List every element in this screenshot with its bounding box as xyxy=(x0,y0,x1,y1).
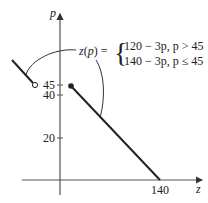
leader-upper xyxy=(26,50,76,75)
annotation-case1: 120 − 3p, p > 45 xyxy=(124,39,204,53)
segment-upper xyxy=(12,60,33,83)
segment-lower xyxy=(71,86,160,180)
x-axis-label: z xyxy=(195,182,201,196)
annotation-lhs: z(p) = xyxy=(78,44,108,58)
leader-lower xyxy=(96,60,103,118)
x-tick-140: 140 xyxy=(151,183,169,197)
closed-endpoint xyxy=(68,83,74,89)
y-tick-40: 40 xyxy=(43,88,55,102)
y-axis-label: p xyxy=(49,6,56,20)
demand-chart: 45 40 20 140 p z z(p) = { 120 − 3p, p > … xyxy=(0,0,208,203)
annotation-case2: 140 − 3p, p ≤ 45 xyxy=(124,54,203,68)
y-tick-20: 20 xyxy=(43,131,55,145)
open-endpoint xyxy=(32,82,37,87)
